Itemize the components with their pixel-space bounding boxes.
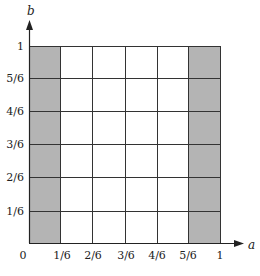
svg-text:1: 1 xyxy=(17,40,24,53)
svg-text:3/6: 3/6 xyxy=(117,249,135,262)
svg-text:3/6: 3/6 xyxy=(6,138,24,151)
svg-text:0: 0 xyxy=(20,249,27,262)
unit-square-diagram: b a 1 5/6 4/6 3/6 2/6 1/6 0 1/6 2/6 3/6 … xyxy=(0,0,260,276)
svg-text:4/6: 4/6 xyxy=(6,105,24,118)
svg-text:1/6: 1/6 xyxy=(53,249,71,262)
svg-text:1/6: 1/6 xyxy=(6,205,24,218)
y-axis-arrow-icon xyxy=(26,20,33,30)
svg-text:2/6: 2/6 xyxy=(6,171,24,184)
svg-text:4/6: 4/6 xyxy=(148,249,166,262)
x-tick-labels: 0 1/6 2/6 3/6 4/6 5/6 1 xyxy=(20,249,224,262)
x-axis-arrow-icon xyxy=(234,240,244,247)
y-tick-labels: 1 5/6 4/6 3/6 2/6 1/6 xyxy=(6,40,24,218)
svg-text:1: 1 xyxy=(217,249,224,262)
svg-text:5/6: 5/6 xyxy=(6,72,24,85)
x-axis-name: a xyxy=(248,238,255,252)
svg-text:2/6: 2/6 xyxy=(84,249,102,262)
svg-text:5/6: 5/6 xyxy=(179,249,197,262)
y-axis-name: b xyxy=(27,4,35,18)
